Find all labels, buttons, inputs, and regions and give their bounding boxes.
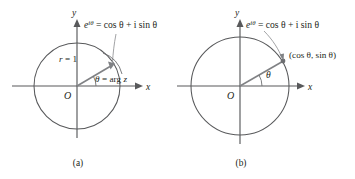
x-axis-arrowhead xyxy=(297,83,305,90)
euler-formula-label: eiθ= cos θ + i sin θ xyxy=(84,19,157,30)
svg-text:r= 1: r= 1 xyxy=(59,54,78,64)
svg-text:θ= argz: θ= argz xyxy=(95,74,128,84)
panel-b-caption: (b) xyxy=(236,158,247,169)
euler-rest: = cos θ + i sin θ xyxy=(96,19,157,30)
x-axis-label: x xyxy=(307,82,313,92)
euler-formula-label: eiθ= cos θ + i sin θ xyxy=(246,19,319,30)
radius-label: r= 1 xyxy=(59,54,78,64)
y-axis-label: y xyxy=(71,8,77,18)
origin-label: O xyxy=(64,90,71,101)
x-axis-arrowhead xyxy=(135,83,143,90)
euler-exponent: iθ xyxy=(250,19,256,26)
radius-vector-arrowhead xyxy=(108,62,115,70)
angle-arc xyxy=(259,75,262,86)
euler-rest: = cos θ + i sin θ xyxy=(258,19,319,30)
arg-eq: = arg xyxy=(102,74,121,84)
complex-plane-figure: y x O eiθ= cos θ + i sin θ r= 1 θ= argz … xyxy=(0,0,355,179)
origin-label: O xyxy=(227,90,234,101)
panel-b: y x O eiθ= cos θ + i sin θ θ (cos θ, sin… xyxy=(177,0,355,179)
arg-z: z xyxy=(123,74,128,84)
y-axis-arrowhead xyxy=(237,19,244,27)
radius-value: = 1 xyxy=(65,54,77,64)
panel-a: y x O eiθ= cos θ + i sin θ r= 1 θ= argz … xyxy=(0,0,178,179)
arg-theta: θ xyxy=(95,74,100,84)
angle-label: θ xyxy=(266,69,271,80)
y-axis-label: y xyxy=(234,8,240,18)
point-coordinates-label: (cos θ, sin θ) xyxy=(289,50,336,60)
euler-exponent: iθ xyxy=(88,19,94,26)
svg-text:eiθ= cos θ + i sin θ: eiθ= cos θ + i sin θ xyxy=(84,19,157,30)
argument-label: θ= argz xyxy=(95,74,128,84)
y-axis-arrowhead xyxy=(74,19,81,27)
radius-var: r xyxy=(59,54,63,64)
euler-leader-line xyxy=(113,34,117,62)
svg-text:eiθ= cos θ + i sin θ: eiθ= cos θ + i sin θ xyxy=(246,19,319,30)
x-axis-label: x xyxy=(145,82,151,92)
panel-a-caption: (a) xyxy=(73,158,83,169)
